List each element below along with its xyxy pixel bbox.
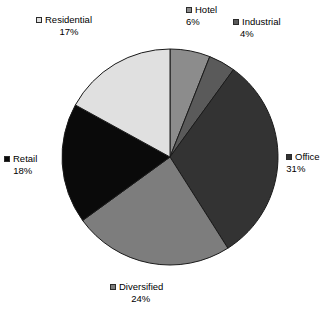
slice-label-hotel-pct: 6% <box>186 16 218 28</box>
slice-label-hotel: Hotel 6% <box>186 4 218 28</box>
slice-label-industrial-pct: 4% <box>233 28 281 40</box>
swatch-residential-icon <box>36 17 42 23</box>
slice-label-office-pct: 31% <box>286 163 320 175</box>
slice-label-hotel-row: Hotel <box>186 4 218 16</box>
slice-label-industrial: Industrial 4% <box>233 16 281 40</box>
slice-label-industrial-name: Industrial <box>242 16 281 28</box>
slice-label-office: Office 31% <box>286 151 320 175</box>
swatch-diversified-icon <box>110 284 116 290</box>
slice-label-residential-pct: 17% <box>36 26 92 38</box>
swatch-industrial-icon <box>233 19 239 25</box>
swatch-retail-icon <box>4 156 10 162</box>
slice-label-residential-row: Residential <box>36 14 92 26</box>
slice-label-industrial-row: Industrial <box>233 16 281 28</box>
swatch-hotel-icon <box>186 7 192 13</box>
slice-label-diversified-pct: 24% <box>110 293 163 305</box>
slice-label-residential-name: Residential <box>45 14 92 26</box>
slice-label-retail-name: Retail <box>13 153 37 165</box>
slice-label-retail: Retail 18% <box>4 153 37 177</box>
slice-label-office-name: Office <box>295 151 320 163</box>
pie-slices-group <box>62 49 278 265</box>
slice-label-diversified-row: Diversified <box>110 281 163 293</box>
slice-label-retail-row: Retail <box>4 153 37 165</box>
slice-label-hotel-name: Hotel <box>195 4 217 16</box>
pie-chart-canvas <box>0 0 335 313</box>
slice-label-residential: Residential 17% <box>36 14 92 38</box>
slice-label-retail-pct: 18% <box>4 165 37 177</box>
swatch-office-icon <box>286 154 292 160</box>
slice-label-diversified: Diversified 24% <box>110 281 163 305</box>
slice-label-office-row: Office <box>286 151 320 163</box>
slice-label-diversified-name: Diversified <box>119 281 163 293</box>
pie-chart-figure: Hotel 6% Industrial 4% Residential 17% O… <box>0 0 335 313</box>
